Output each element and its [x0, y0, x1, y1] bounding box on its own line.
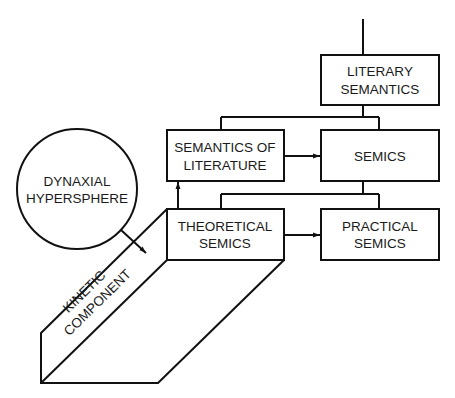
node-theoretical-semics: THEORETICAL SEMICS: [167, 209, 284, 260]
node-literary-semantics: LITERARY SEMANTICS: [321, 55, 439, 105]
tree-connector-upper: [221, 105, 379, 130]
svg-text:LITERARY: LITERARY: [347, 64, 413, 79]
svg-text:HYPERSPHERE: HYPERSPHERE: [26, 191, 128, 206]
node-semics: SEMICS: [321, 130, 439, 181]
tree-connector-lower: [221, 181, 379, 209]
svg-text:SEMICS: SEMICS: [354, 236, 406, 251]
node-semantics-of-literature: SEMANTICS OF LITERATURE: [167, 130, 284, 181]
svg-text:DYNAXIAL: DYNAXIAL: [44, 174, 111, 189]
svg-text:THEORETICAL: THEORETICAL: [178, 219, 273, 234]
svg-text:SEMICS: SEMICS: [199, 236, 251, 251]
node-dynaxial-hypersphere: DYNAXIAL HYPERSPHERE: [17, 129, 137, 249]
svg-text:SEMANTICS OF: SEMANTICS OF: [174, 140, 275, 155]
node-practical-semics: PRACTICAL SEMICS: [321, 209, 439, 260]
svg-text:SEMICS: SEMICS: [354, 149, 406, 164]
svg-text:SEMANTICS: SEMANTICS: [341, 82, 420, 97]
svg-text:LITERATURE: LITERATURE: [183, 158, 266, 173]
svg-text:PRACTICAL: PRACTICAL: [342, 219, 418, 234]
semantics-diagram: KINETIC COMPONENT LITERARY SEMANTICS SEM…: [0, 0, 455, 398]
